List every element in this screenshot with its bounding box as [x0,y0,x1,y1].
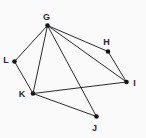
edge-G-J [48,26,97,117]
node-L [12,59,17,64]
node-label-G: G [43,12,50,22]
node-label-K: K [19,89,26,99]
node-G [45,23,50,28]
node-label-H: H [103,37,110,47]
node-label-J: J [92,123,97,133]
graph-canvas: GHLIKJ [0,0,146,138]
edge-G-K [33,26,48,94]
edge-K-J [33,94,97,117]
edge-G-I [48,26,127,83]
node-H [106,49,111,54]
node-I [124,80,129,85]
node-label-I: I [133,78,136,88]
node-label-L: L [3,55,9,65]
node-J [94,114,99,119]
graph-diagram: GHLIKJ [0,0,146,138]
edge-G-L [15,26,48,62]
node-K [31,91,36,96]
edge-K-I [33,82,127,94]
edge-H-I [108,52,127,83]
